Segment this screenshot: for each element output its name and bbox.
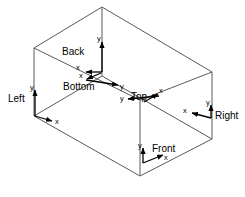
diagram-canvas: y x x y y x y x y x <box>0 0 245 197</box>
cuboid-edges <box>34 7 212 176</box>
face-label-front: Front <box>152 143 175 154</box>
top-y-axis-letter: y <box>120 94 124 103</box>
front-y-axis-letter: y <box>138 141 142 150</box>
box-wireframe-svg: y x x y y x y x y x <box>0 0 245 197</box>
face-label-top: Top <box>131 91 147 102</box>
right-x-axis-line <box>192 113 211 118</box>
axis-triad-left <box>35 90 52 121</box>
face-label-left: Left <box>8 93 25 104</box>
back-y-axis-letter: y <box>97 34 101 43</box>
face-label-right: Right <box>215 110 238 121</box>
axis-triad-back <box>86 42 102 72</box>
face-label-bottom: Bottom <box>63 81 95 92</box>
face-label-back: Back <box>62 46 84 57</box>
edge-bottom-front-right <box>140 139 212 176</box>
right-y-axis-letter: y <box>206 98 210 107</box>
bottom-y-axis-letter: y <box>120 82 124 91</box>
front-x-axis-line <box>143 155 163 163</box>
bottom-x-axis-letter: x <box>79 71 83 80</box>
left-y-axis-letter: y <box>30 83 34 92</box>
top-x-axis-letter: x <box>159 86 163 95</box>
front-x-axis-letter: x <box>164 153 168 162</box>
edge-bottom-left-front <box>34 116 140 176</box>
edge-bottom-back-right <box>102 76 212 139</box>
left-x-axis-letter: x <box>55 117 59 126</box>
right-x-axis-letter: x <box>183 106 187 115</box>
